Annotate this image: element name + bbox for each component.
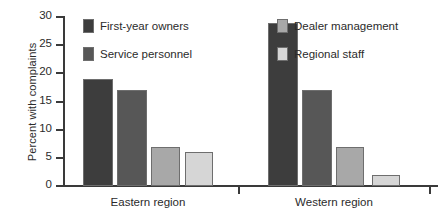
bar [372, 175, 400, 186]
legend-item: Regional staff [277, 47, 364, 61]
legend-swatch-icon [277, 19, 288, 33]
x-axis-separator-tick [238, 187, 240, 194]
bar [151, 147, 180, 186]
legend-swatch-icon [83, 47, 94, 61]
legend-label: Dealer management [294, 20, 398, 32]
y-axis-tick [56, 129, 64, 131]
y-axis-tick [56, 44, 64, 46]
legend-label: Service personnel [100, 48, 192, 60]
legend-item: First-year owners [83, 19, 189, 33]
legend-item: Dealer management [277, 19, 398, 33]
x-axis-category-label: Eastern region [111, 196, 186, 208]
y-axis-tick [56, 72, 64, 74]
y-axis-tick-label: 15 [8, 94, 52, 106]
y-axis-tick [56, 16, 64, 18]
legend-item: Service personnel [83, 47, 192, 61]
y-axis-tick [56, 185, 64, 187]
y-axis-tick-label: 5 [8, 150, 52, 162]
bar [83, 79, 113, 186]
bar [117, 90, 147, 186]
bar [336, 147, 364, 186]
y-axis-tick-label: 20 [8, 65, 52, 77]
y-axis-tick-label: 0 [8, 178, 52, 190]
y-axis-tick [56, 101, 64, 103]
bar-chart: Percent with complaints 051015202530 Eas… [0, 0, 440, 224]
y-axis-tick [56, 157, 64, 159]
legend-swatch-icon [83, 19, 94, 33]
legend-label: Regional staff [294, 48, 364, 60]
bar [302, 90, 332, 186]
x-axis-category-label: Western region [295, 196, 373, 208]
bar [185, 152, 213, 186]
y-axis-tick-label: 25 [8, 37, 52, 49]
x-axis-end-tick [429, 187, 431, 194]
legend-swatch-icon [277, 47, 288, 61]
legend-label: First-year owners [100, 20, 189, 32]
y-axis-tick-label: 30 [8, 9, 52, 21]
y-axis-tick-label: 10 [8, 122, 52, 134]
